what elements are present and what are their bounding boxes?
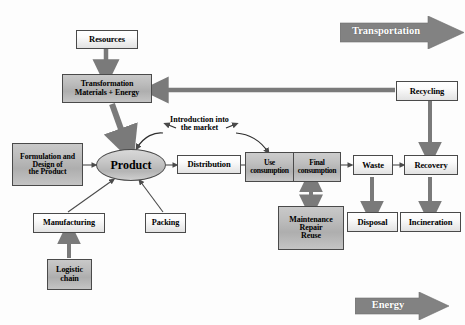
- node-incineration-label: Incineration: [409, 218, 453, 227]
- node-distribution-label: Distribution: [187, 160, 230, 169]
- node-final-consumption[interactable]: Final consumption: [293, 152, 341, 182]
- node-logistic-chain[interactable]: Logistic chain: [47, 259, 92, 290]
- node-manufacturing[interactable]: Manufacturing: [33, 213, 105, 233]
- node-packing[interactable]: Packing: [145, 213, 186, 233]
- node-incineration[interactable]: Incineration: [400, 212, 461, 232]
- node-transformation[interactable]: Transformation Materials + Energy: [62, 74, 152, 103]
- node-final-consumption-line2: consumption: [298, 167, 336, 175]
- node-disposal-label: Disposal: [358, 218, 388, 227]
- node-waste[interactable]: Waste: [353, 155, 393, 175]
- node-product[interactable]: Product: [96, 149, 166, 181]
- node-maintenance-line3: Reuse: [301, 232, 321, 240]
- node-use-consumption-line2: consumption: [250, 167, 288, 175]
- node-logistic-line2: chain: [60, 275, 79, 283]
- node-use-consumption[interactable]: Use consumption: [245, 152, 294, 182]
- consumption-group: Use consumption Final consumption: [245, 152, 341, 182]
- node-manufacturing-label: Manufacturing: [43, 219, 95, 227]
- edge-packing-to-product: [140, 181, 163, 212]
- node-packing-label: Packing: [152, 219, 180, 227]
- node-recovery-label: Recovery: [414, 161, 447, 170]
- energy-banner-label: Energy: [355, 299, 421, 310]
- node-maintenance-repair-reuse[interactable]: Maintenance Repair Reuse: [278, 206, 344, 250]
- edge-transformation-to-product: [112, 104, 126, 143]
- node-resources[interactable]: Resources: [76, 30, 138, 49]
- transportation-banner-label: Transportation: [340, 25, 432, 36]
- node-formulation-line3: the Product: [29, 168, 67, 176]
- node-product-label: Product: [110, 158, 151, 173]
- node-recycling[interactable]: Recycling: [396, 81, 458, 101]
- edge-market-to-use: [236, 133, 268, 152]
- node-distribution[interactable]: Distribution: [177, 155, 241, 174]
- node-waste-label: Waste: [362, 161, 384, 170]
- node-transformation-line2: Materials + Energy: [75, 89, 140, 97]
- edge-market-to-product: [137, 133, 163, 148]
- node-recovery[interactable]: Recovery: [404, 155, 458, 175]
- diagram-canvas: Transportation Energy Resources Transfor…: [0, 0, 465, 325]
- node-disposal[interactable]: Disposal: [347, 212, 398, 232]
- node-formulation-design[interactable]: Formulation and Design of the Product: [12, 143, 83, 186]
- node-recycling-label: Recycling: [410, 87, 445, 96]
- node-resources-label: Resources: [89, 35, 125, 44]
- label-introduction-line2: the market: [157, 124, 242, 132]
- label-introduction-into-the-market: Introduction into the market: [157, 116, 242, 132]
